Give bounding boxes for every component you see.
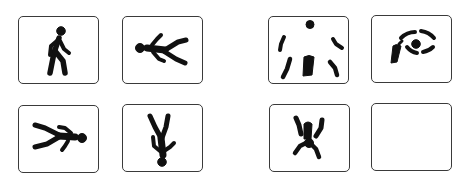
- tile-empty: empty: [371, 103, 452, 171]
- walking-person-icon: [19, 17, 98, 83]
- falling-person-backward-icon: [19, 106, 98, 172]
- tile-upside-down-person: person upside down: [122, 104, 203, 172]
- tile-fragmented-figure: fragmented figure parts: [268, 16, 349, 84]
- tile-tumbling-figure: tumbling figure: [269, 104, 350, 172]
- eye-fragment-icon: [372, 16, 451, 82]
- tile-falling-person-backward: person lying, head to the right: [18, 105, 99, 173]
- fragmented-figure-icon: [269, 17, 348, 83]
- upside-down-person-icon: [123, 105, 202, 171]
- tumbling-figure-icon: [270, 105, 349, 171]
- tile-label: empty: [372, 104, 373, 105]
- tile-falling-person-forward: person falling, lying face-down: [122, 16, 203, 84]
- tile-walking-person: walking person: [18, 16, 99, 84]
- tile-eye-fragment: eye-like fragments: [371, 15, 452, 83]
- falling-person-forward-icon: [123, 17, 202, 83]
